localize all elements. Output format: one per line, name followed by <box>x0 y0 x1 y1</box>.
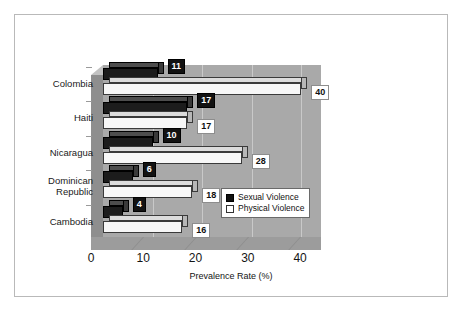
value-label-physical-violence: 18 <box>202 188 220 203</box>
value-label-physical-violence: 16 <box>192 223 210 238</box>
y-axis-tick <box>86 101 92 102</box>
category-label-line: Republic <box>15 186 93 197</box>
chart-frame: 114017171028618416 Sexual Violence Physi… <box>14 14 448 297</box>
category-label: DominicanRepublic <box>15 175 93 197</box>
bar-physical-violence <box>103 186 192 198</box>
category-label: Haiti <box>15 112 93 123</box>
plot-side-wall-top <box>91 65 103 75</box>
bar-end-cap <box>123 200 129 212</box>
chart-legend: Sexual Violence Physical Violence <box>221 188 310 218</box>
value-label-physical-violence: 40 <box>311 85 329 100</box>
value-label-sexual-violence: 17 <box>197 93 215 108</box>
legend-item-sexual-violence: Sexual Violence <box>226 192 304 203</box>
x-tick-label: 20 <box>180 251 212 265</box>
bar-end-cap <box>182 215 188 227</box>
plot-floor <box>91 237 321 250</box>
y-axis-tick <box>86 136 92 137</box>
bar-end-cap <box>158 62 164 74</box>
bar-physical-violence <box>103 221 182 233</box>
bar-end-cap <box>153 131 159 143</box>
legend-swatch-sexual-violence <box>226 194 234 202</box>
value-label-sexual-violence: 10 <box>163 128 181 143</box>
bar-end-cap <box>192 180 198 192</box>
value-label-sexual-violence: 11 <box>168 59 186 74</box>
x-tick-label: 10 <box>127 251 159 265</box>
bar-physical-violence <box>103 152 242 164</box>
bar-end-cap <box>301 77 307 89</box>
y-axis-tick <box>86 170 92 171</box>
legend-swatch-physical-violence <box>226 205 234 213</box>
x-tick-label: 0 <box>75 251 107 265</box>
category-label-line: Dominican <box>15 175 93 186</box>
category-label: Nicaragua <box>15 147 93 158</box>
bar-front-face <box>103 221 182 233</box>
bar-end-cap <box>242 146 248 158</box>
bar-end-cap <box>187 96 193 108</box>
legend-label-physical-violence: Physical Violence <box>238 203 304 214</box>
category-label: Colombia <box>15 78 93 89</box>
legend-label-sexual-violence: Sexual Violence <box>238 192 299 203</box>
category-label: Cambodia <box>15 216 93 227</box>
x-tick-label: 40 <box>284 251 316 265</box>
x-tick-label: 30 <box>232 251 264 265</box>
x-axis-title: Prevalence Rate (%) <box>15 271 447 281</box>
bar-end-cap <box>133 165 139 177</box>
y-axis-tick <box>86 67 92 68</box>
value-label-physical-violence: 17 <box>197 119 215 134</box>
value-label-sexual-violence: 4 <box>133 197 146 212</box>
value-label-physical-violence: 28 <box>252 154 270 169</box>
legend-item-physical-violence: Physical Violence <box>226 203 304 214</box>
plot-area: 114017171028618416 Sexual Violence Physi… <box>103 65 321 237</box>
bar-front-face <box>103 152 242 164</box>
bar-end-cap <box>187 111 193 123</box>
value-label-sexual-violence: 6 <box>143 162 156 177</box>
y-axis-tick <box>86 205 92 206</box>
bar-front-face <box>103 186 192 198</box>
